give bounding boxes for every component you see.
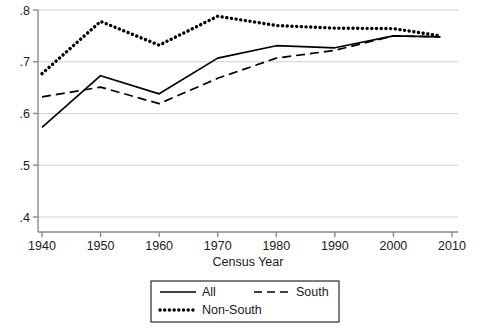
legend-label-non-south: Non-South bbox=[202, 303, 262, 317]
y-tick-label: .8 bbox=[20, 4, 30, 18]
line-chart: .4.5.6.7.8 19401950196019701980199020002… bbox=[0, 0, 480, 331]
x-tick-label: 1970 bbox=[204, 239, 232, 253]
legend-label-all: All bbox=[202, 285, 216, 299]
x-axis-title: Census Year bbox=[213, 255, 284, 269]
y-tick-label: .6 bbox=[20, 107, 30, 121]
x-tick-label: 1990 bbox=[321, 239, 349, 253]
y-tick-label: .4 bbox=[20, 211, 30, 225]
legend-label-south: South bbox=[296, 285, 329, 299]
y-tick-label: .5 bbox=[20, 159, 30, 173]
x-tick-label: 1960 bbox=[145, 239, 173, 253]
x-tick-label: 1940 bbox=[28, 239, 56, 253]
chart-legend: AllSouthNon-South bbox=[151, 281, 339, 322]
x-tick-label: 2000 bbox=[380, 239, 408, 253]
x-tick-label: 1950 bbox=[87, 239, 115, 253]
chart-figure: .4.5.6.7.8 19401950196019701980199020002… bbox=[0, 0, 480, 331]
x-tick-label: 1980 bbox=[262, 239, 290, 253]
x-tick-label: 2010 bbox=[438, 239, 466, 253]
y-tick-label: .7 bbox=[20, 55, 30, 69]
